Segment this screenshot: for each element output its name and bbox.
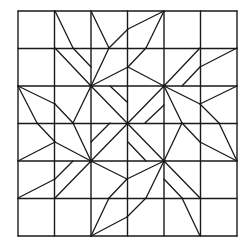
pattern-line — [127, 198, 146, 217]
pattern-line — [91, 198, 109, 236]
pattern-line — [164, 179, 182, 198]
quilt-pattern-diagram — [0, 0, 247, 245]
hub-point — [89, 84, 93, 88]
pattern-line — [164, 86, 200, 104]
pattern-line — [182, 67, 200, 86]
pattern-line — [55, 161, 91, 198]
hub-point — [89, 159, 93, 163]
pattern-line — [182, 123, 200, 142]
pattern-line — [91, 11, 109, 48]
pattern-line — [18, 86, 55, 104]
pattern-line — [109, 179, 127, 198]
pattern-line — [91, 217, 127, 236]
pattern-line — [55, 104, 73, 123]
pattern-line — [127, 161, 164, 179]
pattern-line — [18, 179, 55, 198]
pattern-line — [182, 198, 200, 236]
hub-point — [162, 84, 166, 88]
pattern-line — [73, 86, 91, 123]
pattern-line — [73, 48, 91, 67]
pattern-line — [128, 11, 164, 29]
pattern-line — [200, 104, 219, 123]
pattern-line — [55, 48, 91, 86]
pattern-line — [73, 123, 91, 161]
pattern-line — [128, 67, 164, 86]
hub-point — [126, 122, 130, 126]
pattern-line — [145, 105, 164, 123]
pattern-line — [55, 11, 73, 48]
pattern-line — [164, 86, 182, 123]
pattern-line — [164, 161, 200, 198]
pattern-line — [91, 123, 110, 142]
pattern-line — [37, 123, 55, 142]
pattern-line — [110, 86, 127, 102]
pattern-line — [146, 161, 164, 198]
pattern-line — [200, 142, 237, 161]
pattern-line — [200, 48, 237, 67]
pattern-line — [146, 11, 164, 48]
pattern-line — [18, 86, 37, 123]
pattern-line — [55, 161, 73, 179]
pattern-line — [91, 48, 109, 86]
hub-point — [162, 159, 166, 163]
pattern-line — [109, 29, 128, 48]
pattern-line — [55, 142, 91, 161]
pattern-line — [128, 48, 146, 67]
pattern-line — [164, 123, 182, 161]
pattern-line — [18, 142, 55, 161]
pattern-line — [128, 142, 146, 161]
pattern-line — [91, 161, 127, 179]
pattern-line — [91, 67, 128, 86]
pattern-line — [219, 123, 237, 161]
pattern-line — [200, 86, 237, 104]
pattern-line — [164, 48, 200, 86]
